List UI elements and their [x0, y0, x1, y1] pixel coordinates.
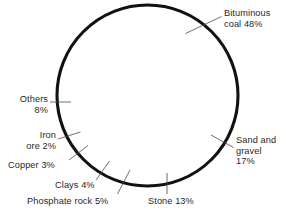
pie-label-stone: Stone 13% — [148, 196, 194, 207]
pie-label-sand-and-gravel: Sand and gravel 17% — [236, 135, 276, 167]
pie-label-bituminous-coal: Bituminous coal 48% — [224, 8, 270, 29]
pie-label-clays: Clays 4% — [55, 180, 95, 191]
pie-chart: Bituminous coal 48% Sand and gravel 17% … — [0, 0, 286, 216]
pie-outline-circle — [57, 5, 238, 186]
pie-label-phosphate-rock: Phosphate rock 5% — [27, 196, 108, 207]
pie-label-iron-ore: Iron ore 2% — [12, 130, 56, 151]
pie-label-others: Others 8% — [4, 94, 48, 115]
pie-label-copper: Copper 3% — [8, 160, 55, 171]
